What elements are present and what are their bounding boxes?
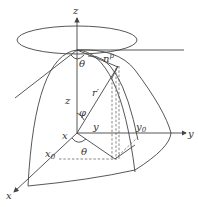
tangent-line-diagonal <box>15 50 77 98</box>
diagram-figure: z y x θ np r′ z φ y y0 x x0 θ <box>0 0 198 207</box>
label-phi: φ <box>79 107 86 118</box>
diagram-svg: z y x θ np r′ z φ y y0 x x0 θ <box>0 0 198 207</box>
label-y-axis: y <box>187 128 194 139</box>
label-theta-top: θ <box>79 58 85 69</box>
theta-bottom-arc <box>72 138 86 142</box>
sphere-arc-left <box>28 50 77 186</box>
label-x-axis: x <box>6 190 12 201</box>
label-x0: x0 <box>45 148 56 161</box>
label-theta-bottom: θ <box>81 146 87 157</box>
label-y-length: y <box>92 121 99 132</box>
dashed-y0-line <box>115 137 138 159</box>
label-z-axis: z <box>72 5 79 16</box>
label-x-length: x <box>62 130 68 141</box>
label-r-prime: r′ <box>92 87 100 98</box>
label-np: np <box>103 52 114 64</box>
label-z-height: z <box>64 95 71 106</box>
x-axis <box>14 133 77 192</box>
sphere-arc-bottom <box>28 170 135 186</box>
